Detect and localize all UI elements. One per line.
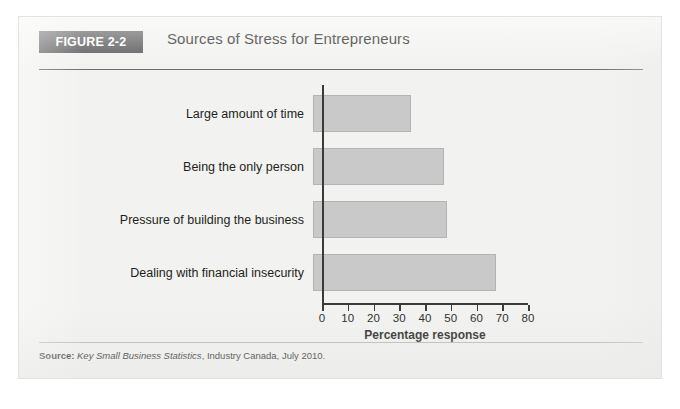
bar-track xyxy=(313,246,643,299)
x-axis-tick xyxy=(322,305,324,311)
x-axis-tick-label: 50 xyxy=(444,312,457,324)
figure-panel: FIGURE 2-2 Sources of Stress for Entrepr… xyxy=(18,16,662,379)
x-axis-tick xyxy=(374,305,376,311)
figure-number-badge: FIGURE 2-2 xyxy=(39,31,143,53)
bar xyxy=(313,95,411,132)
x-axis-tick-label: 60 xyxy=(470,312,483,324)
bar-track xyxy=(313,140,643,193)
figure-header: FIGURE 2-2 Sources of Stress for Entrepr… xyxy=(19,31,661,57)
x-axis-tick-label: 0 xyxy=(319,312,325,324)
source-note: Source: Key Small Business Statistics, I… xyxy=(39,350,325,361)
source-label: Source: xyxy=(39,350,74,361)
x-axis-tick-label: 70 xyxy=(496,312,509,324)
chart-plot-area: Large amount of timeBeing the only perso… xyxy=(39,81,643,331)
source-rest: , Industry Canada, July 2010. xyxy=(202,350,326,361)
x-axis-tick xyxy=(502,305,504,311)
x-axis-tick-label: 20 xyxy=(367,312,380,324)
header-divider xyxy=(39,69,643,70)
bar-category-label: Dealing with financial insecurity xyxy=(39,266,313,280)
bar xyxy=(313,201,447,238)
x-axis-title: Percentage response xyxy=(322,328,528,342)
x-axis-tick xyxy=(399,305,401,311)
bar-track xyxy=(313,87,643,140)
x-axis-tick-label: 80 xyxy=(522,312,535,324)
x-axis-tick-label: 30 xyxy=(393,312,406,324)
x-axis-tick-label: 40 xyxy=(419,312,432,324)
x-axis-tick xyxy=(528,305,530,311)
bar-track xyxy=(313,193,643,246)
bar-row: Large amount of time xyxy=(39,87,643,140)
x-axis-tick xyxy=(451,305,453,311)
bar-series: Large amount of timeBeing the only perso… xyxy=(39,87,643,299)
bar xyxy=(313,254,496,291)
bar-category-label: Large amount of time xyxy=(39,107,313,121)
source-divider xyxy=(39,342,643,343)
x-axis-tick xyxy=(477,305,479,311)
x-axis-tick xyxy=(425,305,427,311)
x-axis-tick-label: 10 xyxy=(341,312,354,324)
bar-row: Dealing with financial insecurity xyxy=(39,246,643,299)
source-publication: Key Small Business Statistics xyxy=(77,350,202,361)
bar-category-label: Being the only person xyxy=(39,160,313,174)
x-axis-tick xyxy=(348,305,350,311)
y-axis-line xyxy=(322,85,324,303)
figure-title: Sources of Stress for Entrepreneurs xyxy=(167,30,410,47)
bar-category-label: Pressure of building the business xyxy=(39,213,313,227)
bar-row: Pressure of building the business xyxy=(39,193,643,246)
bar xyxy=(313,148,444,185)
bar-row: Being the only person xyxy=(39,140,643,193)
